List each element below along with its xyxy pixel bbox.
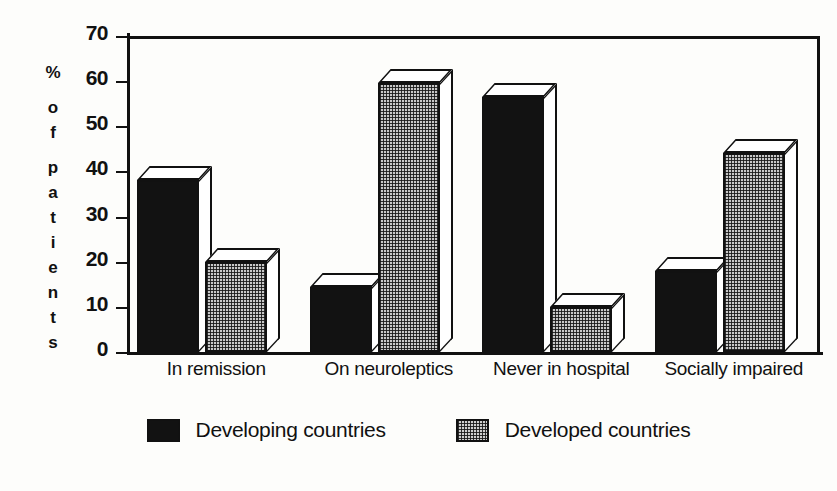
bar-front-face (378, 83, 440, 352)
bar-top-face (723, 139, 798, 153)
legend-label: Developed countries (505, 418, 691, 442)
bar-developed (550, 307, 612, 352)
plot-frame-top (130, 36, 820, 39)
bar-front-face (137, 180, 199, 352)
bar-top-face (310, 273, 385, 287)
bar-front-face (310, 287, 372, 352)
bar-developing (137, 180, 199, 352)
bar-developing (482, 97, 544, 352)
bar-developed (378, 83, 440, 352)
legend-item-developing: Developing countries (147, 418, 386, 442)
y-tick-label: 30 (16, 202, 108, 226)
y-tick-label: 50 (16, 111, 108, 135)
x-category-label: On neuroleptics (303, 358, 476, 380)
bar-developing (655, 271, 717, 352)
bar-front-face (550, 307, 612, 352)
bar-front-face (655, 271, 717, 352)
bar-side-face (267, 248, 280, 352)
legend-item-developed: Developed countries (456, 418, 691, 442)
plot-frame-right (817, 36, 820, 352)
bar-top-face (482, 83, 557, 97)
plot-area (130, 36, 820, 352)
chart-legend: Developing countries Developed countries (0, 418, 837, 442)
y-tick-label: 40 (16, 156, 108, 180)
y-tick-label: 20 (16, 247, 108, 271)
y-tick-label: 60 (16, 66, 108, 90)
bar-top-face (655, 257, 730, 271)
x-axis-labels: In remissionOn neurolepticsNever in hosp… (0, 358, 837, 388)
x-category-label: In remission (130, 358, 303, 380)
y-axis-ticks: 010203040506070 (0, 0, 130, 400)
y-tick-label: 70 (16, 21, 108, 45)
x-category-label: Never in hospital (475, 358, 648, 380)
bar-developed (205, 262, 267, 352)
bar-front-face (205, 262, 267, 352)
bar-top-face (205, 248, 280, 262)
legend-label: Developing countries (196, 418, 386, 442)
bar-side-face (785, 139, 798, 352)
bar-top-face (550, 293, 625, 307)
y-tick-label: 10 (16, 292, 108, 316)
bar-developing (310, 287, 372, 352)
legend-swatch-dark-icon (147, 419, 180, 442)
bar-front-face (482, 97, 544, 352)
x-axis-line (127, 352, 823, 355)
bar-developed (723, 153, 785, 352)
bar-side-face (440, 69, 453, 352)
legend-swatch-light-icon (456, 419, 489, 442)
bar-top-face (378, 69, 453, 83)
bar-front-face (723, 153, 785, 352)
bar-chart-figure: % o f p a t i e n t s 010203040506070 In… (0, 0, 837, 491)
x-category-label: Socially impaired (648, 358, 821, 380)
